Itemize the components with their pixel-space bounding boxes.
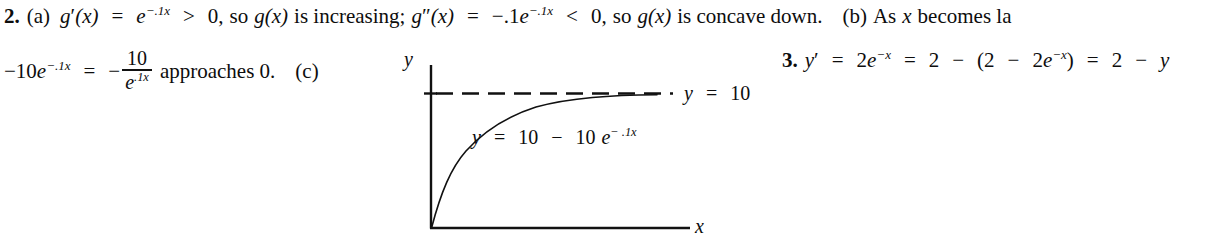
exponent-neg-point1x-1: −.1x	[146, 3, 170, 18]
zero-2: 0,	[591, 4, 607, 28]
fraction-denominator: e.1x	[122, 72, 152, 92]
b-variable-x: x	[902, 4, 911, 28]
curve-label-minus: −	[551, 126, 562, 148]
solution-line-2a: 2.(a)g′(x)=e−.1x>0,sog(x)is increasing;g…	[4, 4, 1011, 29]
problem-number-2: 2.	[4, 4, 20, 28]
y-symbol-final: y	[1160, 48, 1169, 72]
y-axis-label: y	[404, 48, 413, 71]
minus-sign-3: −	[1135, 48, 1147, 72]
g-prime-symbol: g	[60, 4, 71, 28]
exponent-neg-point1x-3: −.1x	[46, 58, 70, 73]
leading-minus-sign: −	[108, 59, 120, 83]
e-base-3: e	[37, 59, 46, 83]
minus-sign-2: −	[1008, 48, 1020, 72]
fraction-ten-over-e: 10e.1x	[122, 48, 152, 92]
g-double-prime-symbol: g	[411, 4, 422, 28]
neg-ten-coefficient: −10	[4, 59, 37, 83]
constant-two-b: 2	[929, 48, 940, 72]
asymptote-label-y: y	[684, 82, 693, 104]
problem-number-3: 3.	[782, 48, 798, 72]
is-increasing-text: is increasing;	[294, 4, 405, 28]
y-prime-mark: ′	[814, 48, 819, 72]
coefficient-two-a: 2	[857, 48, 868, 72]
equals-3: =	[84, 59, 96, 83]
is-concave-down-text: is concave down.	[677, 4, 822, 28]
b-text-becomes-large-clipped: becomes la	[918, 4, 1012, 28]
g-double-prime-argument: (x)	[431, 4, 454, 28]
solution-line-3: 3.y′=2e−x=2−(2−2e−x)=2−y	[782, 48, 1169, 73]
curve-equation-label: y=10−10e− .1x	[472, 126, 637, 149]
asymptote-label-value: 10	[730, 82, 750, 104]
fraction-numerator: 10	[122, 48, 152, 68]
coefficient-two-d: 2	[1032, 48, 1043, 72]
part-label-b: (b)	[842, 4, 867, 28]
equals-2: =	[467, 4, 479, 28]
e-base-5: e	[1043, 48, 1052, 72]
curve-label-exponent: − .1x	[610, 125, 636, 139]
exponent-neg-point1x-2: −.1x	[529, 3, 553, 18]
constant-two-c: 2	[984, 48, 995, 72]
so-word-1: so	[230, 4, 249, 28]
x-axis-label: x	[695, 215, 704, 238]
curve-label-ten: 10	[518, 126, 538, 148]
denominator-e-base: e	[125, 71, 134, 93]
asymptote-label-equals: =	[706, 82, 717, 104]
so-word-2: so	[613, 4, 632, 28]
zero-1: 0,	[208, 4, 224, 28]
exponential-curve	[432, 95, 658, 228]
y-symbol-1: y	[805, 48, 814, 72]
solution-line-2b-continued: −10e−.1x=−10e.1xapproaches 0.(c)	[4, 48, 319, 92]
neg-point-one-coefficient: −.1	[492, 4, 520, 28]
less-than-sign: <	[566, 4, 578, 28]
equals-6: =	[1087, 48, 1099, 72]
exponent-neg-x-2: −x	[1052, 47, 1067, 62]
curve-label-e-base: e	[601, 126, 610, 148]
g-prime-argument: (x)	[75, 4, 98, 28]
exponent-neg-x-1: −x	[876, 47, 891, 62]
g-symbol-3: g	[637, 4, 648, 28]
g-argument-2: (x)	[265, 4, 288, 28]
e-base-4: e	[867, 48, 876, 72]
b-text-as: As	[873, 4, 896, 28]
approaches-zero-text: approaches 0.	[160, 59, 275, 83]
equals-1: =	[111, 4, 123, 28]
exponential-growth-chart: y x y=10 y=10−10e− .1x	[396, 52, 726, 243]
equals-5: =	[904, 48, 916, 72]
g-symbol-2: g	[254, 4, 265, 28]
equals-4: =	[832, 48, 844, 72]
denominator-exponent: .1x	[134, 70, 149, 84]
minus-sign-1: −	[952, 48, 964, 72]
double-prime-mark: ″	[422, 4, 431, 28]
part-label-a: (a)	[27, 4, 50, 28]
g-argument-3: (x)	[648, 4, 671, 28]
curve-label-ten-2: 10	[575, 126, 595, 148]
e-base-1: e	[136, 4, 145, 28]
constant-two-e: 2	[1112, 48, 1123, 72]
curve-label-equals: =	[494, 126, 505, 148]
curve-label-y: y	[472, 126, 481, 148]
asymptote-label: y=10	[684, 82, 750, 105]
e-base-2: e	[519, 4, 528, 28]
greater-than-sign: >	[183, 4, 195, 28]
part-label-c: (c)	[295, 59, 318, 83]
close-paren: )	[1067, 48, 1074, 72]
